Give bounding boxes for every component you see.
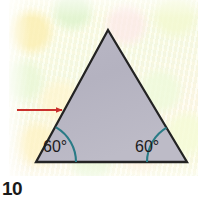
- geometry-figure: 60° 60°: [0, 0, 198, 200]
- left-angle-label: 60°: [43, 138, 67, 155]
- figure-screenshot: 60° 60° 10: [0, 0, 198, 200]
- right-angle-label: 60°: [135, 138, 159, 155]
- page-number: 10: [2, 179, 22, 198]
